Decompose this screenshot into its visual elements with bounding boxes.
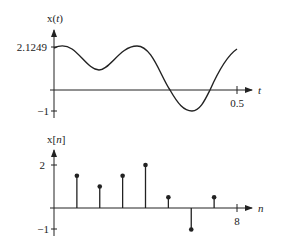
bottom-ytick-label-max: 2: [40, 159, 46, 171]
stem-marker: [166, 195, 171, 200]
stem-marker: [120, 173, 125, 178]
signal-figure: x(t) 2.1249 −1 0.5 t x[n] 2 −1 8 n: [0, 0, 283, 250]
stem-marker: [212, 195, 217, 200]
bottom-xtick-label: 8: [234, 215, 240, 227]
stem-marker: [75, 173, 80, 178]
stem-marker: [189, 227, 194, 232]
discrete-signal-plot: x[n] 2 −1 8 n: [37, 133, 264, 236]
stem-marker: [143, 163, 148, 168]
bottom-ytick-label-min: −1: [37, 223, 49, 235]
top-xtick-label: 0.5: [230, 97, 244, 109]
top-y-axis-label: x(t): [47, 12, 63, 25]
stem-marker: [97, 184, 102, 189]
top-ytick-label-min: −1: [37, 105, 49, 117]
top-ytick-label-max: 2.1249: [17, 41, 48, 53]
bottom-x-axis-label: n: [258, 202, 264, 214]
continuous-signal-plot: x(t) 2.1249 −1 0.5 t: [17, 12, 262, 118]
bottom-y-axis-label: x[n]: [47, 133, 65, 145]
signal-curve: [54, 46, 237, 111]
top-x-axis-label: t: [258, 84, 262, 96]
stem-series: [75, 163, 217, 232]
